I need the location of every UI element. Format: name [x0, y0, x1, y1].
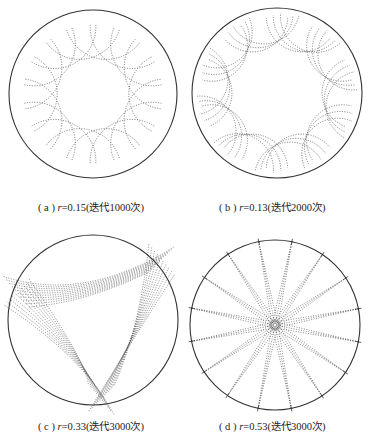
outer-circle-c	[8, 235, 178, 405]
figure-canvas	[0, 0, 369, 443]
caption-b: ( b ) r=0.13(迭代2000次)	[219, 199, 326, 214]
outer-circle-b	[192, 8, 362, 178]
outer-circle-a	[9, 10, 177, 178]
caption-d: ( d ) r=0.53(迭代3000次)	[219, 418, 326, 433]
caption-a: ( a ) r=0.15(迭代1000次)	[38, 199, 144, 214]
caption-c: ( c ) r=0.33(迭代3000次)	[38, 418, 144, 433]
